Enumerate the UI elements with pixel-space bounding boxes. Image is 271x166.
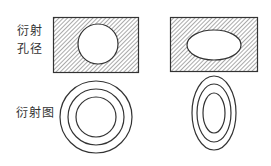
- elliptical-diffraction-pattern: [192, 76, 236, 150]
- circular-aperture: [54, 18, 139, 73]
- elliptical-aperture: [171, 18, 258, 72]
- diffraction-diagram: [0, 0, 271, 166]
- circular-diffraction-pattern: [60, 81, 132, 153]
